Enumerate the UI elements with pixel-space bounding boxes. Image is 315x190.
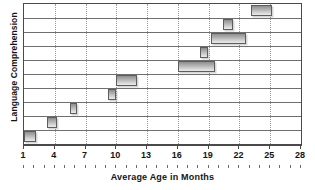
x-minor-tick bbox=[95, 165, 96, 168]
x-minor-tick bbox=[259, 165, 260, 168]
y-axis-title: Language Comprehension bbox=[9, 0, 19, 137]
x-tick-label: 10 bbox=[102, 150, 128, 160]
row-separator-line bbox=[24, 88, 301, 89]
x-minor-tick bbox=[85, 165, 86, 168]
x-tick-label: 22 bbox=[225, 150, 251, 160]
x-tick-label: 25 bbox=[256, 150, 282, 160]
x-tick-label: 4 bbox=[41, 150, 67, 160]
x-minor-tick bbox=[187, 165, 188, 168]
x-minor-tick bbox=[269, 165, 270, 168]
x-minor-tick bbox=[197, 165, 198, 168]
x-minor-tick bbox=[146, 165, 147, 168]
row-separator-line bbox=[24, 116, 301, 117]
x-axis-title: Average Age in Months bbox=[23, 172, 302, 182]
bar-1 bbox=[24, 131, 36, 142]
x-tick bbox=[54, 145, 55, 149]
x-tick bbox=[208, 145, 209, 149]
x-minor-tick bbox=[167, 165, 168, 168]
bar-3 bbox=[70, 103, 77, 114]
x-minor-tick bbox=[74, 165, 75, 168]
x-tick bbox=[115, 145, 116, 149]
x-minor-tick bbox=[249, 165, 250, 168]
x-gridline bbox=[270, 4, 271, 144]
bar-7 bbox=[200, 47, 207, 58]
x-tick-label: 1 bbox=[10, 150, 36, 160]
row-separator-line bbox=[24, 74, 301, 75]
row-separator-line bbox=[24, 102, 301, 103]
x-minor-tick bbox=[105, 165, 106, 168]
x-tick-label: 28 bbox=[287, 150, 313, 160]
x-gridline bbox=[239, 4, 240, 144]
row-separator-line bbox=[24, 60, 301, 61]
row-separator-line bbox=[24, 130, 301, 131]
bar-10 bbox=[251, 5, 273, 16]
x-minor-tick bbox=[208, 165, 209, 168]
x-tick-label: 16 bbox=[164, 150, 190, 160]
plot-inner bbox=[24, 4, 301, 144]
x-tick bbox=[238, 145, 239, 149]
x-minor-tick bbox=[279, 165, 280, 168]
x-gridline bbox=[209, 4, 210, 144]
x-minor-tick bbox=[54, 165, 55, 168]
bar-6 bbox=[178, 61, 215, 72]
x-minor-tick bbox=[44, 165, 45, 168]
x-minor-tick bbox=[136, 165, 137, 168]
x-minor-tick bbox=[238, 165, 239, 168]
x-tick-label: 19 bbox=[195, 150, 221, 160]
x-tick bbox=[23, 145, 24, 149]
row-separator-line bbox=[24, 46, 301, 47]
x-gridline bbox=[147, 4, 148, 144]
x-tick bbox=[177, 145, 178, 149]
x-tick-label: 7 bbox=[72, 150, 98, 160]
x-tick bbox=[85, 145, 86, 149]
x-minor-tick bbox=[177, 165, 178, 168]
x-minor-tick bbox=[290, 165, 291, 168]
bar-2 bbox=[47, 117, 57, 128]
x-axis-line bbox=[23, 145, 302, 146]
x-minor-tick bbox=[126, 165, 127, 168]
x-minor-tick bbox=[300, 165, 301, 168]
bar-8 bbox=[211, 33, 246, 44]
x-gridline bbox=[86, 4, 87, 144]
row-separator-line bbox=[24, 18, 301, 19]
x-tick bbox=[146, 145, 147, 149]
x-minor-tick bbox=[115, 165, 116, 168]
bar-9 bbox=[223, 19, 233, 30]
plot-area bbox=[23, 3, 302, 145]
x-minor-tick bbox=[228, 165, 229, 168]
x-minor-tick bbox=[64, 165, 65, 168]
x-axis: Average Age in Months 14710131619222528 bbox=[23, 145, 302, 190]
chart-container: Language Comprehension Average Age in Mo… bbox=[0, 0, 315, 190]
x-tick bbox=[269, 145, 270, 149]
x-minor-tick bbox=[23, 165, 24, 168]
row-separator-line bbox=[24, 32, 301, 33]
x-minor-tick bbox=[156, 165, 157, 168]
x-tick bbox=[300, 145, 301, 149]
bar-5 bbox=[116, 75, 137, 86]
x-gridline bbox=[178, 4, 179, 144]
x-minor-tick bbox=[33, 165, 34, 168]
x-tick-label: 13 bbox=[133, 150, 159, 160]
bar-4 bbox=[108, 89, 116, 100]
x-minor-tick bbox=[218, 165, 219, 168]
